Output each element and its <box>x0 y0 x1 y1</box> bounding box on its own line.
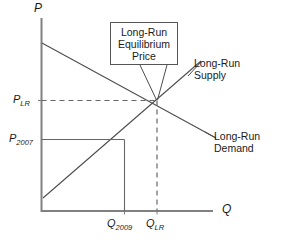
x-tick-sub-q-lr: LR <box>155 223 165 232</box>
x-tick-base-q-2009: Q <box>107 217 116 229</box>
y-tick-sub-p-lr: LR <box>20 99 30 108</box>
y-tick-label-p-lr: PLR <box>13 93 30 109</box>
demand-label-line-2: Demand <box>214 142 260 154</box>
demand-label-line-1: Long-Run <box>214 130 260 142</box>
y-tick-label-p-2007: P2007 <box>9 132 33 148</box>
y-axis-title: P <box>34 2 42 16</box>
equilibrium-price-callout: Long-Run Equilibrium Price <box>110 22 178 65</box>
x-tick-base-q-lr: Q <box>146 217 155 229</box>
x-tick-label-q-2009: Q2009 <box>107 217 132 233</box>
long-run-demand-label: Long-Run Demand <box>214 130 260 154</box>
callout-line-3: Price <box>132 50 156 62</box>
y-tick-sub-p-2007: 2007 <box>16 138 33 147</box>
supply-demand-figure: P Q PLR P2007 Q2009 QLR Long-Run Equilib… <box>0 0 285 249</box>
x-axis-title: Q <box>222 203 231 217</box>
callout-leader-left <box>140 65 157 100</box>
callout-line-2: Equilibrium <box>118 38 170 50</box>
long-run-supply-curve <box>43 61 201 198</box>
supply-label-line-2: Supply <box>194 69 240 81</box>
callout-line-1: Long-Run <box>121 26 167 38</box>
supply-label-line-1: Long-Run <box>194 57 240 69</box>
x-tick-label-q-lr: QLR <box>146 217 164 233</box>
long-run-supply-label: Long-Run Supply <box>194 57 240 81</box>
x-tick-sub-q-2009: 2009 <box>116 223 133 232</box>
